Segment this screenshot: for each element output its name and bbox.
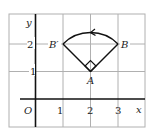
y-tick-1: 1: [30, 66, 36, 77]
x-tick-1: 1: [57, 105, 63, 116]
point-B-prime-label: B′: [48, 39, 59, 50]
x-axis-label: x: [136, 104, 142, 115]
y-tick-2: 2: [27, 39, 33, 50]
x-tick-2: 2: [87, 105, 93, 116]
x-tick-3: 3: [115, 105, 121, 116]
point-A-label: A: [86, 75, 94, 86]
coordinate-diagram: y x O 1 2 3 1 2 A B B′: [0, 0, 154, 134]
y-axis-label: y: [25, 17, 32, 28]
origin-label: O: [24, 105, 32, 116]
point-B-label: B: [120, 39, 128, 50]
